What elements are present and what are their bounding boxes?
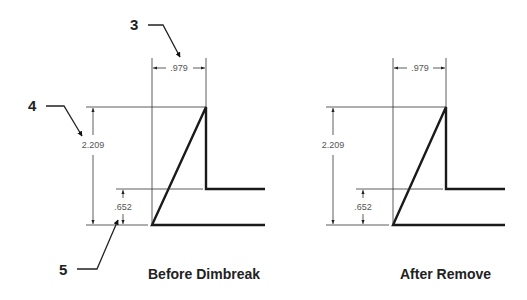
callout-leader-5	[77, 220, 118, 269]
caption-after-remove: After Remove	[400, 266, 491, 282]
part-profile	[152, 107, 265, 225]
callout-label-3: 3	[130, 16, 138, 33]
dim-height-before: 2.209	[82, 140, 105, 150]
dim-height-after: 2.209	[322, 140, 345, 150]
figure-after-remove	[326, 58, 505, 225]
figure-before-dimbreak	[86, 58, 265, 225]
callout-label-4: 4	[28, 97, 37, 114]
callout-leader-4	[46, 106, 82, 136]
callout-label-5: 5	[59, 261, 67, 278]
dim-width-after: .979	[411, 63, 429, 73]
drawing-canvas: 3 4 5 .979 2.209 .652 .979 2.209 .652 Be…	[0, 0, 527, 300]
callout-leader-3	[148, 25, 180, 57]
dim-width-before: .979	[170, 63, 188, 73]
dim-step-before: .652	[114, 202, 132, 212]
dim-step-after: .652	[354, 202, 372, 212]
part-profile	[393, 107, 505, 225]
caption-before-dimbreak: Before Dimbreak	[148, 266, 260, 282]
